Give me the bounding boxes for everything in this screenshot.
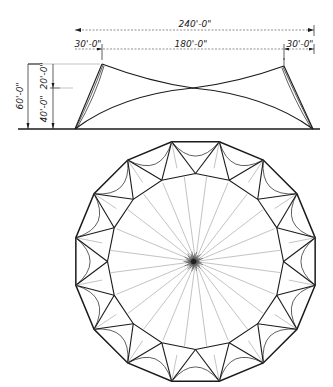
overall-span-dimension: 240'-0" bbox=[75, 19, 314, 36]
upper-height-label: 20'-0" bbox=[39, 62, 49, 89]
truss-member bbox=[258, 194, 297, 200]
cusp-curve bbox=[301, 238, 315, 286]
cusp-curve bbox=[291, 194, 315, 238]
cusp-curve bbox=[219, 357, 263, 381]
radial-line bbox=[117, 262, 196, 295]
right-bay-label: 30'-0" bbox=[286, 39, 313, 49]
truss-member bbox=[258, 324, 297, 330]
plan-view bbox=[76, 142, 315, 381]
truss-member bbox=[219, 343, 229, 381]
cusp-curve bbox=[128, 142, 172, 166]
cusp-curve bbox=[76, 285, 100, 329]
cusp-curve bbox=[128, 357, 172, 381]
architectural-drawing: 240'-0" 30'-0" 180'-0" 30'-0" 60'-0" bbox=[0, 0, 333, 387]
left-bay-label: 30'-0" bbox=[74, 39, 101, 49]
truss-member bbox=[277, 285, 315, 295]
truss-member bbox=[162, 343, 172, 381]
height-dimensions: 60'-0" 20'-0" 40'-0" bbox=[15, 62, 100, 129]
lower-height-label: 40'-0" bbox=[39, 95, 49, 122]
truss-member bbox=[76, 228, 114, 238]
cusp-curve bbox=[76, 194, 100, 238]
truss-member bbox=[76, 238, 108, 262]
truss-member bbox=[172, 350, 196, 382]
truss-member bbox=[277, 228, 315, 238]
truss-member bbox=[258, 324, 264, 363]
cusp-curve bbox=[76, 238, 90, 286]
saddle-roof-elevation bbox=[75, 58, 313, 129]
cusp-curve bbox=[172, 367, 220, 381]
cusp-curve bbox=[219, 142, 263, 166]
truss-member bbox=[196, 350, 220, 382]
truss-member bbox=[172, 142, 196, 174]
truss-member bbox=[219, 142, 229, 180]
truss-member bbox=[76, 285, 114, 295]
truss-member bbox=[258, 160, 264, 199]
truss-member bbox=[284, 262, 316, 286]
truss-member bbox=[94, 324, 133, 330]
total-height-label: 60'-0" bbox=[15, 82, 25, 109]
truss-member bbox=[196, 142, 220, 174]
truss-member bbox=[128, 324, 134, 363]
truss-member bbox=[94, 194, 133, 200]
truss-member bbox=[128, 160, 134, 199]
elevation-view: 240'-0" 30'-0" 180'-0" 30'-0" 60'-0" bbox=[15, 19, 320, 129]
truss-member bbox=[284, 238, 316, 262]
center-span-label: 180'-0" bbox=[175, 39, 208, 49]
cusp-curve bbox=[172, 142, 220, 156]
cusp-curve bbox=[291, 285, 315, 329]
radial-line bbox=[196, 262, 229, 341]
radial-line bbox=[196, 229, 275, 262]
truss-member bbox=[76, 262, 108, 286]
overall-span-label: 240'-0" bbox=[179, 19, 212, 29]
radial-line bbox=[163, 183, 196, 262]
bay-dimensions: 30'-0" 180'-0" 30'-0" bbox=[74, 39, 314, 60]
truss-member bbox=[162, 142, 172, 180]
